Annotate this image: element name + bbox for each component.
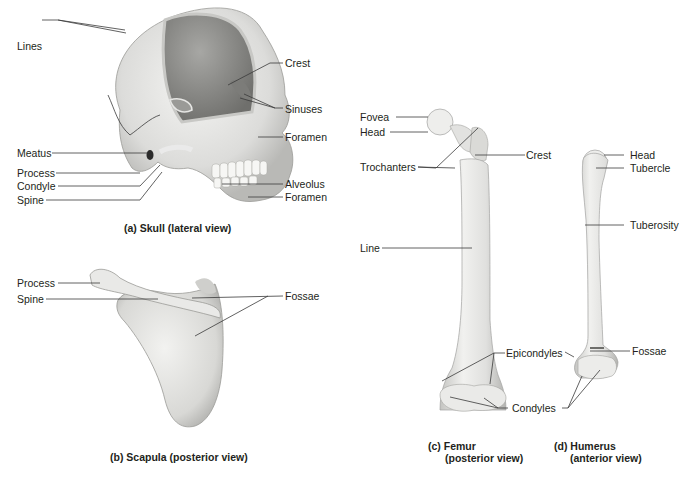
label-fossae: Fossae — [632, 345, 666, 357]
label-fovea: Fovea — [360, 111, 389, 123]
label-process: Process — [17, 167, 55, 179]
label-crest: Crest — [526, 149, 551, 161]
scapula-drawing — [90, 269, 223, 427]
label-fossae: Fossae — [285, 290, 319, 302]
label-lines: Lines — [17, 40, 42, 52]
label-alveolus: Alveolus — [285, 178, 325, 190]
label-line: Line — [360, 242, 380, 254]
label-crest: Crest — [285, 57, 310, 69]
label-process: Process — [17, 277, 55, 289]
anatomy-illustration — [0, 0, 686, 477]
label-condyles: Condyles — [512, 402, 556, 414]
caption-humerus-line2: (anterior view) — [570, 452, 642, 465]
label-trochanters: Trochanters — [360, 161, 416, 173]
label-foramen-upper: Foramen — [285, 131, 327, 143]
skull-drawing — [108, 8, 293, 202]
label-tubercle: Tubercle — [630, 162, 670, 174]
femur-drawing — [427, 109, 506, 411]
label-condyle: Condyle — [17, 180, 56, 192]
caption-femur-line2: (posterior view) — [445, 452, 523, 465]
label-sinuses: Sinuses — [285, 103, 322, 115]
humerus-drawing — [575, 150, 618, 379]
label-foramen-lower: Foramen — [285, 191, 327, 203]
label-spine: Spine — [17, 194, 44, 206]
label-head: Head — [360, 126, 385, 138]
caption-skull: (a) Skull (lateral view) — [124, 222, 231, 235]
label-spine: Spine — [17, 293, 44, 305]
caption-scapula: (b) Scapula (posterior view) — [110, 451, 248, 464]
label-head: Head — [630, 149, 655, 161]
label-epicondyles: Epicondyles — [506, 347, 563, 359]
label-tuberosity: Tuberosity — [630, 219, 679, 231]
label-meatus: Meatus — [17, 147, 51, 159]
